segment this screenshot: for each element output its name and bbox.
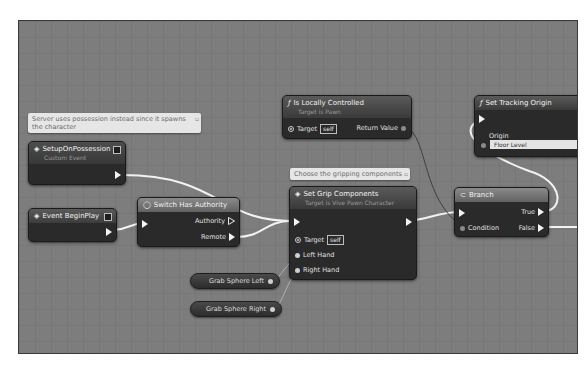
- pin-label-origin: Origin: [489, 132, 509, 140]
- variable-grab-sphere-right[interactable]: Grab Sphere Right: [190, 301, 282, 317]
- comment-text: Server uses possession instead since it …: [32, 115, 186, 131]
- function-icon: ◈: [295, 190, 300, 199]
- origin-pin[interactable]: [481, 143, 486, 148]
- node-title: Event BeginPlay: [42, 209, 99, 223]
- exec-out-pin-remote[interactable]: [229, 233, 235, 241]
- node-subtitle: Custom Event: [34, 154, 86, 161]
- event-diamond-icon: ◈: [34, 145, 39, 154]
- node-title: Is Locally Controlled: [293, 99, 363, 108]
- exec-in-pin[interactable]: [459, 209, 465, 217]
- left-hand-pin[interactable]: [295, 253, 300, 258]
- comment-gripping-note[interactable]: Choose the gripping components ▫: [290, 168, 410, 180]
- branch-icon: ⊂: [460, 188, 466, 202]
- exec-in-pin[interactable]: [479, 115, 485, 123]
- pin-label-return-value: Return Value: [357, 124, 399, 132]
- blueprint-graph-canvas[interactable]: Server uses possession instead since it …: [18, 20, 578, 354]
- exec-out-pin[interactable]: [106, 228, 112, 236]
- comment-pin-icon[interactable]: ▫: [404, 170, 408, 178]
- exec-in-pin[interactable]: [142, 220, 148, 228]
- node-title: Switch Has Authority: [154, 198, 227, 212]
- node-switch-has-authority[interactable]: ◯ Switch Has Authority Authority Remote: [137, 197, 240, 247]
- node-title: Set Tracking Origin: [485, 96, 551, 110]
- comment-pin-icon[interactable]: ▫: [195, 115, 199, 123]
- event-delegate-pin[interactable]: [104, 213, 112, 221]
- target-pin[interactable]: [295, 237, 301, 243]
- pin-label-target: Target: [304, 236, 324, 244]
- node-subtitle: Target is Pawn: [288, 108, 341, 115]
- node-set-grip-components[interactable]: ◈ Set Grip Components Target is Vive Paw…: [289, 186, 417, 280]
- pin-label-condition: Condition: [468, 224, 499, 232]
- exec-out-pin[interactable]: [406, 218, 412, 226]
- variable-label: Grab Sphere Right: [206, 305, 266, 313]
- node-title: Branch: [469, 188, 494, 202]
- function-icon: ƒ: [480, 96, 482, 110]
- pin-label-true: True: [521, 208, 535, 216]
- variable-out-pin[interactable]: [270, 307, 275, 312]
- target-pin[interactable]: [288, 126, 294, 132]
- right-hand-pin[interactable]: [295, 268, 300, 273]
- exec-out-pin-authority[interactable]: [228, 217, 235, 225]
- exec-in-pin[interactable]: [294, 218, 300, 226]
- exec-out-pin-true[interactable]: [538, 208, 544, 216]
- pin-label-right-hand: Right Hand: [303, 266, 339, 274]
- comment-text: Choose the gripping components: [294, 170, 402, 178]
- variable-out-pin[interactable]: [268, 279, 273, 284]
- exec-out-pin-false[interactable]: [538, 224, 544, 232]
- pin-label-authority: Authority: [195, 217, 225, 225]
- node-is-locally-controlled[interactable]: ƒ Is Locally Controlled Target is Pawn T…: [282, 95, 412, 139]
- condition-pin[interactable]: [460, 226, 465, 231]
- exec-out-pin[interactable]: [115, 171, 121, 179]
- comment-possession-note[interactable]: Server uses possession instead since it …: [28, 113, 201, 133]
- node-setup-on-possession[interactable]: ◈ SetupOnPossession Custom Event: [28, 141, 126, 185]
- pin-label-false: False: [519, 224, 535, 232]
- node-subtitle: Target is Vive Pawn Character: [295, 199, 394, 206]
- node-event-begin-play[interactable]: ◈ Event BeginPlay: [28, 208, 117, 242]
- target-self-value[interactable]: self: [320, 124, 337, 134]
- pin-label-remote: Remote: [201, 233, 226, 241]
- pin-label-left-hand: Left Hand: [303, 251, 334, 259]
- node-set-tracking-origin[interactable]: ƒ Set Tracking Origin Origin Floor Level: [474, 95, 578, 157]
- event-delegate-pin[interactable]: [113, 146, 121, 154]
- function-icon: ƒ: [288, 99, 290, 108]
- return-value-pin[interactable]: [401, 126, 406, 131]
- event-diamond-icon: ◈: [34, 209, 39, 223]
- node-title: Set Grip Components: [303, 190, 378, 199]
- variable-grab-sphere-left[interactable]: Grab Sphere Left: [190, 273, 280, 289]
- target-self-value[interactable]: self: [327, 235, 344, 245]
- variable-label: Grab Sphere Left: [209, 277, 264, 285]
- switch-icon: ◯: [143, 198, 151, 212]
- origin-enum-dropdown[interactable]: Floor Level: [490, 140, 578, 149]
- node-title: SetupOnPossession: [42, 145, 110, 154]
- node-branch[interactable]: ⊂ Branch True Condition False: [454, 187, 549, 237]
- pin-label-target: Target: [297, 125, 317, 133]
